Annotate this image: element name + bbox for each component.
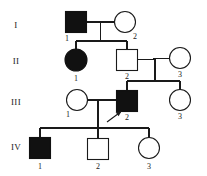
individual-iii-2-affected-male-proband-symbol[interactable] bbox=[117, 91, 138, 112]
individual-i-1-affected-male-symbol[interactable] bbox=[66, 12, 87, 33]
individual-ii-2-number: 2 bbox=[125, 72, 129, 81]
individual-ii-3-unaffected-female-symbol[interactable] bbox=[170, 48, 191, 69]
individual-iii-1-number: 1 bbox=[66, 110, 70, 119]
individual-iii-3-number: 3 bbox=[178, 112, 182, 121]
individual-i-2-number: 2 bbox=[133, 32, 137, 41]
generation-label-i: I bbox=[14, 20, 17, 30]
individual-iv-1-affected-male-symbol[interactable] bbox=[30, 138, 51, 159]
individual-iii-3-unaffected-female-symbol[interactable] bbox=[170, 90, 191, 111]
proband-arrow-icon bbox=[107, 111, 122, 122]
individual-ii-3-number: 3 bbox=[178, 70, 182, 79]
individual-i-1-number: 1 bbox=[65, 34, 69, 43]
pedigree-chart: I II III IV 1 2 1 2 3 1 2 3 1 2 bbox=[0, 0, 207, 176]
generation-label-iii: III bbox=[11, 97, 21, 107]
individual-i-2-unaffected-female-symbol[interactable] bbox=[115, 12, 136, 33]
individual-iii-2-number: 2 bbox=[125, 113, 129, 122]
individual-iv-3-unaffected-female-symbol[interactable] bbox=[139, 138, 160, 159]
individual-ii-1-number: 1 bbox=[74, 74, 78, 83]
individual-iv-1-number: 1 bbox=[38, 162, 42, 171]
individual-ii-1-affected-female-symbol[interactable] bbox=[65, 49, 87, 71]
pedigree-diagram: I II III IV 1 2 1 2 3 1 2 3 1 2 bbox=[0, 0, 207, 176]
individual-ii-2-unaffected-male-symbol[interactable] bbox=[117, 50, 138, 71]
individual-iv-3-number: 3 bbox=[147, 162, 151, 171]
individual-iii-1-unaffected-female-symbol[interactable] bbox=[67, 90, 88, 111]
individual-iv-2-unaffected-male-symbol[interactable] bbox=[88, 139, 109, 160]
individual-iv-2-number: 2 bbox=[96, 162, 100, 171]
generation-label-ii: II bbox=[13, 56, 20, 66]
generation-label-iv: IV bbox=[11, 142, 21, 152]
